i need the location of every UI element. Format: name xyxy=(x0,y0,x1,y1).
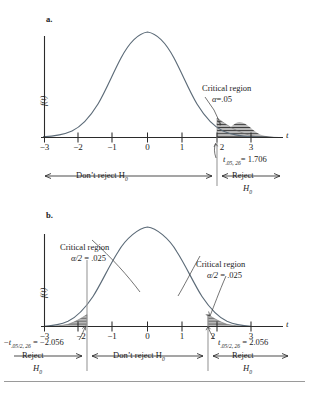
left-critical-value-label-b: −t.05/2, 26 = −2.056 xyxy=(4,338,64,349)
dont-reject-arrow-a xyxy=(45,174,212,179)
right-alpha-label-b: α/2 = .025 xyxy=(207,271,242,281)
reject-h0-b-left: H0 xyxy=(33,364,42,375)
left-critical-region-label-b: Critical region xyxy=(60,243,109,253)
reject-text-b-right: Reject xyxy=(232,350,254,360)
panel-b: b. xyxy=(0,196,309,386)
dont-reject-band-a: Don’t reject H0 xyxy=(76,171,128,182)
critical-value-eq-a: = xyxy=(241,154,246,164)
left-alpha-value-b: .025 xyxy=(91,253,106,263)
left-alpha-eq-b: = xyxy=(84,253,89,263)
reject-band-b-right: Reject xyxy=(232,351,254,361)
x-tick-label-a-6: 3 xyxy=(249,142,254,152)
x-tick-label-b-4: 1 xyxy=(180,331,185,341)
dont-reject-text-a: Don’t reject H xyxy=(76,170,125,180)
x-tick-label-a-0: −3 xyxy=(40,142,50,152)
panel-a-tag: a. xyxy=(46,14,52,24)
right-critical-eq-b: = xyxy=(242,337,247,347)
reject-text-a: Reject xyxy=(232,170,254,180)
right-critical-value-label-b: t.05/2, 26 = 2.056 xyxy=(218,338,268,349)
left-critical-eq-b: = xyxy=(33,337,38,347)
right-alpha-value-b: .025 xyxy=(227,270,242,280)
dont-reject-text-b: Don’t reject H xyxy=(113,350,162,360)
reject-h-sub-b-left: 0 xyxy=(39,369,42,375)
reject-text-b-left: Reject xyxy=(22,350,44,360)
x-tick-label-b-5: 2 xyxy=(211,331,216,341)
panel-b-tag: b. xyxy=(46,210,53,220)
right-critical-subscript-b: .05/2, 26 xyxy=(220,343,240,349)
left-critical-subscript-b: .05/2, 26 xyxy=(11,343,31,349)
bottom-divider xyxy=(4,381,305,382)
right-alpha-leader-b xyxy=(210,276,226,316)
x-axis-label-a: t xyxy=(286,130,289,140)
x-tick-label-a-2: −1 xyxy=(107,142,117,152)
reject-h-sub-a: 0 xyxy=(249,189,252,195)
left-critical-number-b: −2.056 xyxy=(40,337,64,347)
reject-band-a: Reject xyxy=(232,171,254,181)
right-critical-number-b: 2.056 xyxy=(249,337,268,347)
right-alpha-symbol-b: α/2 xyxy=(207,270,218,280)
critical-region-label-a: Critical region xyxy=(202,84,251,94)
x-tick-label-a-4: 1 xyxy=(180,142,185,152)
y-axis-label-b: f(t) xyxy=(38,288,48,298)
reject-h-sub-b-right: 0 xyxy=(249,369,252,375)
x-tick-label-b-1: −2 xyxy=(76,331,86,341)
x-tick-label-b-2: −1 xyxy=(107,331,117,341)
dont-reject-band-b: Don’t reject H0 xyxy=(113,351,165,362)
x-axis-label-b: t xyxy=(286,319,289,329)
reject-h0-b-right: H0 xyxy=(243,364,252,375)
figure-container: a. xyxy=(0,0,309,398)
dont-reject-sub-a: 0 xyxy=(125,176,128,182)
dont-reject-sub-b: 0 xyxy=(162,356,165,362)
left-alpha-label-b: α/2 = .025 xyxy=(71,254,106,264)
critical-value-label-a: t.05, 26= 1.706 xyxy=(223,155,267,166)
x-tick-label-b-3: 0 xyxy=(145,331,150,341)
reject-band-b-left: Reject xyxy=(22,351,44,361)
critical-value-subscript-a: .05, 26 xyxy=(225,160,240,166)
critical-value-number-a: 1.706 xyxy=(248,154,267,164)
y-axis-label-a: f(t) xyxy=(38,96,48,106)
right-critical-region-label-b: Critical region xyxy=(196,260,245,270)
critical-region-shade-b-right xyxy=(208,315,251,327)
critical-region-shade-b-left xyxy=(44,315,87,327)
left-alpha-symbol-b: α/2 xyxy=(71,253,82,263)
panel-a: a. xyxy=(0,0,309,200)
alpha-value-a: .05 xyxy=(221,94,232,104)
x-tick-label-a-3: 0 xyxy=(145,142,150,152)
x-tick-label-a-5: 2 xyxy=(220,142,225,152)
x-tick-label-a-1: −2 xyxy=(73,142,83,152)
alpha-label-a: α=.05 xyxy=(212,95,232,105)
right-alpha-eq-b: = xyxy=(220,270,225,280)
reject-band-h0-a: H0 xyxy=(243,184,252,195)
